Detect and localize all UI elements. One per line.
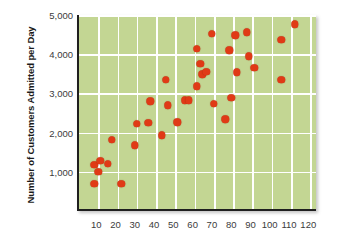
gridline-horizontal (79, 15, 316, 17)
data-point (164, 101, 171, 108)
data-point (158, 132, 165, 139)
data-point (133, 120, 140, 127)
data-point (118, 180, 125, 187)
data-point (108, 136, 115, 143)
data-point (226, 47, 233, 54)
gridline-horizontal (79, 93, 316, 95)
data-point (245, 52, 252, 59)
data-point (174, 119, 181, 126)
gridline-vertical (233, 15, 235, 209)
data-point (193, 83, 200, 90)
gridline-vertical (310, 15, 312, 209)
data-point (210, 100, 217, 107)
data-point (193, 45, 200, 52)
data-point (278, 36, 285, 43)
gridline-horizontal (79, 54, 316, 56)
data-point (197, 60, 204, 67)
data-point (291, 21, 298, 28)
data-point (203, 68, 210, 75)
gridline-vertical (156, 15, 158, 209)
data-point (243, 29, 250, 36)
y-axis-tick-label: 2,000 (29, 127, 73, 138)
gridline-vertical (214, 15, 216, 209)
plot-area (79, 15, 316, 209)
scatter-chart-figure: Number of Customers Admitted per Day 1,0… (0, 0, 340, 243)
data-point (233, 69, 240, 76)
y-axis-tick-label: 1,000 (29, 166, 73, 177)
data-point (145, 119, 152, 126)
data-point (251, 64, 258, 71)
data-point (231, 32, 238, 39)
data-point (96, 157, 103, 164)
plot-frame (77, 15, 316, 211)
y-axis-tick-label: 4,000 (29, 49, 73, 60)
y-axis-tick-label: 5,000 (29, 10, 73, 21)
gridline-vertical (252, 15, 254, 209)
data-point (278, 76, 285, 83)
x-axis-tick-label: 120 (292, 219, 324, 230)
x-axis-tick-labels: 102030405060708090100110120 (77, 219, 316, 233)
data-point (185, 97, 192, 104)
gridline-vertical (272, 15, 274, 209)
gridline-vertical (137, 15, 139, 209)
data-point (95, 168, 102, 175)
gridline-vertical (291, 15, 293, 209)
y-axis-tick-label: 3,000 (29, 88, 73, 99)
gridline-vertical (175, 15, 177, 209)
gridline-horizontal (79, 172, 316, 174)
data-point (162, 76, 169, 83)
data-point (147, 98, 154, 105)
y-axis-tick-labels: 1,0002,0003,0004,0005,000 (25, 15, 73, 211)
gridline-horizontal (79, 133, 316, 135)
data-point (222, 116, 229, 123)
gridline-vertical (98, 15, 100, 209)
data-point (104, 160, 111, 167)
data-point (91, 180, 98, 187)
